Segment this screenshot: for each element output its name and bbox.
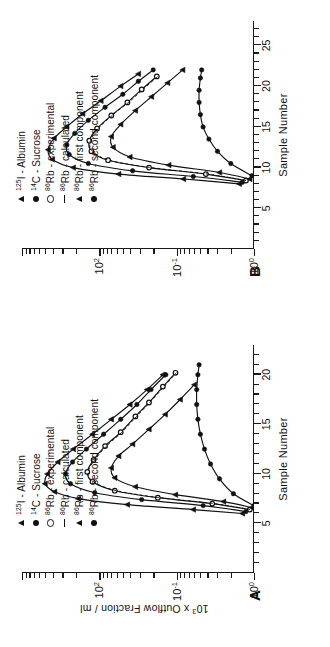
x-tick-minor — [254, 142, 259, 143]
x-tick-minor — [254, 158, 259, 159]
legend-sep: - — [74, 485, 85, 494]
y-tick-minor — [189, 573, 190, 578]
x-tick-minor — [254, 61, 259, 62]
x-tick-minor — [254, 183, 259, 184]
data-point-triangle — [181, 176, 186, 181]
legend-name: Sucrose — [31, 453, 42, 490]
isotope-element: Rb — [45, 170, 56, 183]
data-point-circle — [135, 402, 139, 406]
x-tick-minor — [254, 393, 259, 394]
x-tick-minor — [254, 101, 259, 102]
y-tick-minor — [189, 249, 190, 254]
y-tick-minor — [140, 573, 141, 578]
isotope-element: I — [16, 500, 27, 503]
isotope-element: I — [16, 176, 27, 179]
x-tick-minor — [254, 175, 259, 176]
y-tick-minor — [103, 249, 104, 254]
legend-item: 86Rb - second component — [87, 399, 102, 531]
data-point-open-circle — [109, 113, 114, 118]
y-tick-major-4 — [22, 249, 23, 256]
legend-sep: - — [89, 485, 100, 494]
filled-circle-icon — [91, 191, 97, 207]
y-tick-minor — [184, 249, 185, 254]
data-point-triangle — [125, 502, 130, 507]
x-tick-minor — [254, 118, 259, 119]
legend-sep: - — [60, 485, 71, 494]
x-tick-minor — [254, 150, 259, 151]
y-tick-label-exp: 0 — [247, 258, 256, 262]
x-tick-minor — [254, 52, 259, 53]
y-tick-minor — [111, 573, 112, 578]
isotope-element: C — [31, 176, 42, 183]
y-tick-minor — [231, 573, 232, 578]
data-point-circle — [208, 462, 212, 466]
legend-sep: - — [89, 161, 100, 170]
series-line — [197, 365, 254, 506]
panel-b: 103 x Outflow Fraction / ml — [0, 0, 330, 323]
x-tick-minor — [254, 483, 259, 484]
legend-name: calculated — [60, 439, 71, 485]
legend-sep: - — [74, 161, 85, 170]
legend-name: Albumin — [16, 455, 27, 492]
y-tick-label-base: 10 — [94, 586, 106, 598]
open-circle-icon — [47, 515, 54, 531]
y-tick-label-base: 10 — [171, 265, 183, 277]
y-tick-major-3 — [99, 249, 100, 256]
legend-item: 14C - Sucrose — [29, 399, 44, 531]
legend-label: 86Rb - experimental — [44, 427, 56, 515]
legend-item: 86Rb - calculated — [58, 75, 73, 207]
data-point-triangle — [116, 171, 121, 176]
data-point-triangle — [217, 170, 222, 175]
isotope-mass: 86 — [88, 507, 95, 515]
filled-triangle-up-icon — [76, 515, 82, 531]
y-tick-label-2: 102 — [93, 582, 106, 598]
data-point-circle — [252, 503, 254, 507]
x-tick-minor — [254, 463, 259, 464]
legend-item: 86Rb - first component — [72, 75, 87, 207]
y-title-rest: x Outflow Fraction / ml — [80, 603, 192, 615]
data-point-circle — [101, 432, 105, 436]
x-tick-label: 10 — [261, 162, 272, 174]
y-tick-label-1: 10-1 — [170, 582, 183, 601]
legend-sep: - — [60, 161, 71, 170]
figure-rotation-wrapper: 103 x Outflow Fraction / ml — [0, 0, 330, 647]
y-tick-minor — [45, 573, 46, 578]
x-tick-minor — [254, 232, 259, 233]
y-tick-minor — [123, 249, 124, 254]
data-point-circle — [207, 137, 211, 141]
dash-line-icon — [64, 515, 65, 531]
x-tick-label: 5 — [261, 520, 272, 526]
y-tick-minor — [34, 573, 35, 578]
legend-item: 86Rb - experimental — [43, 75, 58, 207]
y-tick-minor — [29, 249, 30, 254]
data-point-circle — [197, 363, 201, 367]
data-point-circle — [197, 100, 201, 104]
data-point-triangle — [166, 162, 171, 167]
y-tick-major-2 — [177, 573, 178, 580]
isotope-mass: 86 — [44, 183, 51, 191]
legend-sep: - — [31, 167, 42, 176]
isotope-mass: 14 — [30, 507, 37, 515]
data-point-circle — [196, 373, 200, 377]
isotope-element: Rb — [60, 170, 71, 183]
y-tick-minor — [153, 573, 154, 578]
y-tick-minor — [217, 249, 218, 254]
legend-label: 86Rb - first component — [73, 415, 85, 515]
x-tick-minor — [254, 453, 259, 454]
y-tick-label-1: 10-1 — [170, 258, 183, 277]
y-title-base: 10 — [196, 603, 208, 615]
data-point-circle — [151, 68, 155, 72]
y-tick-minor — [39, 249, 40, 254]
data-point-triangle — [173, 492, 178, 497]
isotope-element: Rb — [89, 494, 100, 507]
y-tick-minor — [107, 573, 108, 578]
y-tick-minor — [180, 573, 181, 578]
isotope-mass: 86 — [73, 507, 80, 515]
data-point-circle — [200, 68, 204, 72]
data-point-circle — [191, 174, 195, 178]
data-point-triangle — [127, 154, 132, 159]
x-tick-minor — [254, 552, 259, 553]
x-tick-minor — [254, 532, 259, 533]
x-tick-minor — [254, 215, 259, 216]
x-tick-label: 10 — [261, 468, 272, 480]
